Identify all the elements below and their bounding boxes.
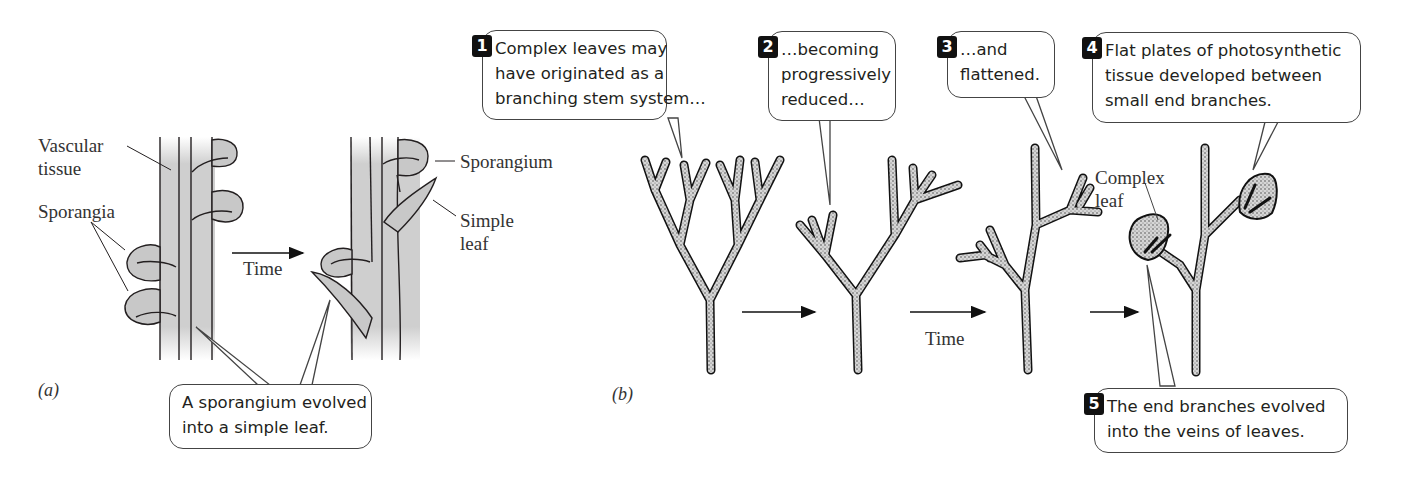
- callout-step-4: 4 Flat plates of photosynthetic tissue d…: [1092, 32, 1361, 123]
- complex-leaf-right: [1239, 174, 1276, 219]
- callout-sporangium-evolved: A sporangium evolved into a simple leaf.: [169, 384, 372, 449]
- callout-a-pointer: [196, 300, 330, 385]
- step-badge-3: 3: [937, 36, 957, 58]
- step-badge-1: 1: [472, 35, 492, 57]
- label-time-a: Time: [243, 257, 282, 280]
- branching-stem-1: [645, 160, 780, 370]
- callout-step-5: 5 The end branches evolved into the vein…: [1094, 388, 1348, 453]
- step-badge-2: 2: [758, 36, 778, 58]
- label-time-b: Time: [925, 327, 964, 350]
- label-simple-leaf: Simple leaf: [460, 209, 514, 255]
- callout-step-1: 1 Complex leaves may have originated as …: [482, 30, 667, 120]
- stem-before-illustration: [91, 137, 243, 360]
- callout-step-3: 3 …and flattened.: [947, 31, 1055, 98]
- flattened-stem-3: [960, 148, 1098, 370]
- step-badge-5: 5: [1084, 393, 1104, 415]
- label-sporangium: Sporangium: [460, 150, 553, 173]
- callout-step-2: 2 …becoming progressively reduced…: [768, 31, 896, 121]
- callout-pointers-b: [668, 96, 1278, 386]
- label-sporangia: Sporangia: [38, 200, 115, 223]
- step-badge-4: 4: [1082, 37, 1102, 59]
- label-vascular-tissue: Vascular tissue: [38, 134, 103, 180]
- label-complex-leaf: Complex leaf: [1095, 166, 1165, 212]
- panel-label-a: (a): [38, 380, 59, 401]
- stem-after-illustration: [312, 137, 456, 360]
- panel-label-b: (b): [612, 384, 633, 405]
